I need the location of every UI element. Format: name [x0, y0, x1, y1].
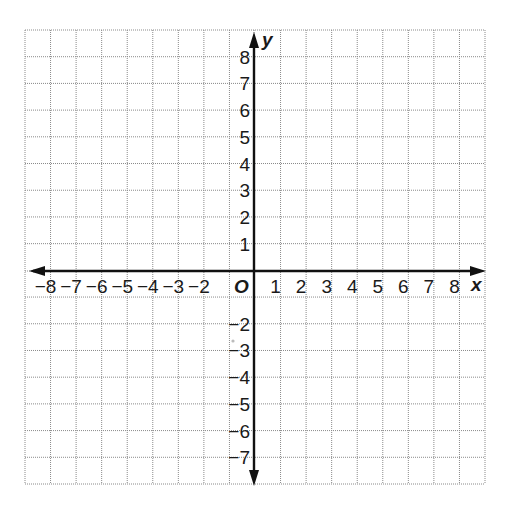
y-tick-label: 8	[239, 47, 250, 68]
x-tick-label: −7	[60, 276, 82, 297]
y-tick-label: −3	[228, 340, 250, 361]
axes	[29, 32, 486, 486]
x-tick-label: −6	[86, 276, 108, 297]
x-tick-label: 4	[347, 276, 358, 297]
x-tick-label: 3	[321, 276, 332, 297]
y-tick-label: 2	[239, 207, 250, 228]
y-tick-label: 1	[239, 234, 250, 255]
x-tick-label: −3	[162, 276, 184, 297]
stray-mark	[231, 339, 234, 342]
y-tick-label: −6	[228, 421, 250, 442]
y-tick-label: 6	[239, 100, 250, 121]
x-tick-label: −4	[137, 276, 159, 297]
coordinate-plane: −8−7−6−5−4−3−212345678 87654321−2−3−4−5−…	[0, 0, 508, 520]
x-tick-label: 2	[296, 276, 307, 297]
x-tick-label: 5	[372, 276, 383, 297]
y-tick-label: 5	[239, 127, 250, 148]
y-tick-label: 7	[239, 73, 250, 94]
x-tick-label: 1	[270, 276, 281, 297]
y-tick-label: −2	[228, 314, 250, 335]
x-tick-label: −5	[111, 276, 133, 297]
x-tick-label: −2	[188, 276, 210, 297]
y-tick-label: 3	[239, 180, 250, 201]
y-axis-up-arrow-icon	[249, 32, 259, 48]
origin-label: O	[234, 276, 249, 297]
y-tick-label: −4	[228, 367, 250, 388]
x-tick-label: 6	[398, 276, 409, 297]
y-tick-label: 4	[239, 154, 250, 175]
y-axis-name: y	[261, 29, 274, 50]
y-tick-label: −7	[228, 447, 250, 468]
x-axis-name: x	[470, 274, 483, 295]
x-tick-label: 7	[424, 276, 435, 297]
x-tick-label: 8	[449, 276, 460, 297]
x-axis-left-arrow-icon	[29, 266, 45, 276]
x-tick-label: −8	[35, 276, 57, 297]
y-tick-label: −5	[228, 394, 250, 415]
